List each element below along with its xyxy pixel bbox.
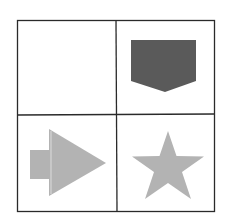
right-arrow-icon <box>30 129 106 196</box>
grid-divider-horizontal <box>17 114 214 115</box>
cell-bottom-right <box>132 131 204 199</box>
grid-divider-vertical <box>116 20 117 212</box>
cell-top-right <box>131 40 196 92</box>
pentagon-shape <box>131 40 196 92</box>
star-icon <box>132 131 204 199</box>
cell-bottom-left <box>30 129 106 196</box>
shape-grid <box>0 0 226 219</box>
